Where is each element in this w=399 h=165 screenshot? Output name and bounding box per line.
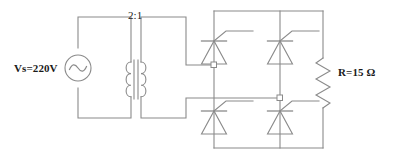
- sine-wave-glyph: [70, 65, 87, 71]
- source-voltage-label: Vs=220V: [14, 62, 58, 74]
- thyristor-T1: [202, 31, 254, 64]
- transformer-secondary-coil: [141, 62, 146, 97]
- transformer-symbol: [126, 60, 146, 99]
- transformer-primary-coil: [126, 62, 131, 97]
- node-ac-terminal-left: [211, 62, 217, 68]
- wire-secondary-bottom: [141, 97, 280, 118]
- thyristor-T3-gate-lead: [214, 101, 253, 111]
- thyristor-T2-gate-lead: [280, 31, 319, 41]
- wire-source-bottom: [78, 88, 131, 118]
- thyristor-T2: [268, 31, 320, 64]
- circuit-schematic-svg: [0, 0, 399, 165]
- thyristor-T4: [268, 101, 320, 134]
- thyristor-T1-gate-lead: [214, 31, 253, 41]
- thyristor-T4-gate-lead: [280, 101, 319, 111]
- load-resistance-label: R=15 Ω: [338, 66, 375, 78]
- thyristor-T3: [202, 101, 254, 134]
- connection-nodes: [211, 62, 283, 101]
- node-ac-terminal-right: [277, 95, 283, 101]
- wire-source-top: [78, 17, 131, 62]
- ac-source-symbol: [65, 55, 91, 81]
- circuit-diagram-canvas: Vs=220V 2:1 R=15 Ω: [0, 0, 399, 165]
- transformer-ratio-label: 2:1: [128, 9, 142, 21]
